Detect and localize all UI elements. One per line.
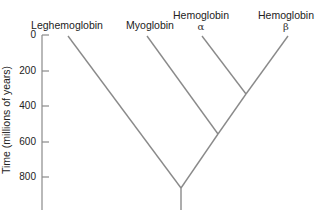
branch-hb-to-myo-node <box>218 94 246 134</box>
y-axis-label: Time (millions of years) <box>0 66 12 174</box>
leaf-sub-beta: β <box>283 22 289 32</box>
branch-hemoglobin-alpha <box>202 36 246 94</box>
leaf-sub-alpha: α <box>198 22 205 32</box>
leaf-label-hemoglobin-alpha: Hemoglobin <box>173 10 229 21</box>
tree-diagram <box>0 0 322 215</box>
branch-myo-node-to-root <box>181 134 218 188</box>
leaf-label-myoglobin: Myoglobin <box>126 20 174 31</box>
y-axis <box>42 35 49 210</box>
tick-0: 0 <box>6 30 36 40</box>
branch-hemoglobin-beta <box>246 36 288 94</box>
branch-myoglobin <box>147 36 218 134</box>
leaf-label-hemoglobin-beta: Hemoglobin <box>258 10 314 21</box>
leaf-label-leghemoglobin: Leghemoglobin <box>31 20 103 31</box>
tree-branches <box>68 36 288 210</box>
